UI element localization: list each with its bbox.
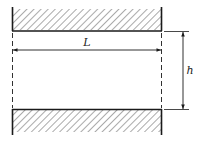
- bottom-plate: [12, 109, 162, 135]
- length-label: L: [82, 36, 90, 49]
- length-dimension: L: [13, 36, 161, 50]
- bottom-plate-hatch: [13, 110, 161, 132]
- height-label: h: [186, 64, 193, 77]
- height-dimension: h: [164, 32, 194, 110]
- top-plate-hatch: [13, 9, 161, 30]
- parallel-plates-diagram: L h: [0, 0, 200, 141]
- top-plate: [12, 7, 162, 31]
